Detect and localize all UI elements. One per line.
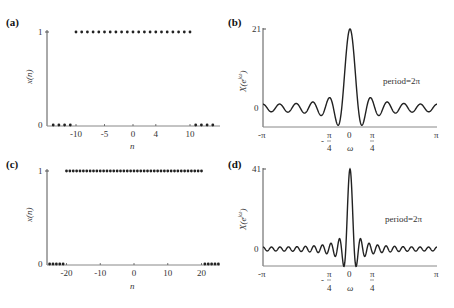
svg-text:0: 0 xyxy=(347,269,352,279)
x-tick-label: 10 xyxy=(186,129,196,139)
sample-point xyxy=(126,31,129,34)
sample-point xyxy=(172,31,175,34)
panel-c-label: (c) xyxy=(6,158,19,171)
sample-point xyxy=(143,170,146,173)
sample-point xyxy=(58,263,61,266)
panel-c-ytick-1: 1 xyxy=(38,166,43,176)
sample-point xyxy=(163,170,166,173)
sample-point xyxy=(146,170,149,173)
panel-d-ytick-top: 41 xyxy=(252,164,261,174)
sample-point xyxy=(173,170,176,173)
svg-text:π: π xyxy=(370,269,375,279)
panel-a-stems xyxy=(52,31,214,127)
svg-text:4: 4 xyxy=(327,143,332,153)
x-tick-label: -20 xyxy=(61,268,73,278)
sample-point xyxy=(75,31,78,34)
sample-point xyxy=(210,263,213,266)
sample-point xyxy=(129,170,132,173)
sample-point xyxy=(115,31,118,34)
sample-point xyxy=(55,263,58,266)
panel-c-ytick-0: 0 xyxy=(38,259,43,269)
panel-d-annotation: period=2π xyxy=(385,214,423,224)
sample-point xyxy=(75,170,78,173)
sample-point xyxy=(89,170,92,173)
sample-point xyxy=(154,31,157,34)
panel-d-ylabel: X(ejω) xyxy=(237,209,248,231)
sample-point xyxy=(156,170,159,173)
panel-d-label: (d) xyxy=(228,158,242,171)
sample-point xyxy=(82,170,85,173)
sample-point xyxy=(109,170,112,173)
panel-b: (b) 21 0 X(ejω) period=2π -π π - 4 0 π 4… xyxy=(228,16,439,153)
sample-point xyxy=(200,124,203,127)
x-tick-label: 10 xyxy=(163,268,173,278)
sample-point xyxy=(92,31,95,34)
sample-point xyxy=(137,31,140,34)
sample-point xyxy=(79,170,82,173)
x-tick-label: 4 xyxy=(154,129,159,139)
sample-point xyxy=(126,170,129,173)
sample-point xyxy=(149,31,152,34)
svg-text:-π: -π xyxy=(258,269,266,279)
sample-point xyxy=(65,170,68,173)
svg-text:-π: -π xyxy=(258,130,266,140)
sample-point xyxy=(52,124,55,127)
panel-a: (a) 1 0 x(n) -10-50410 n xyxy=(6,16,220,151)
sample-point xyxy=(86,31,89,34)
panel-a-ylabel: x(n) xyxy=(24,70,34,86)
sample-point xyxy=(187,170,190,173)
panel-d: (d) 41 0 X(ejω) period=2π -π π - 4 0 π 4… xyxy=(228,158,439,293)
sample-point xyxy=(206,124,209,127)
sample-point xyxy=(92,170,95,173)
figure: (a) 1 0 x(n) -10-50410 n (b) 21 0 X(ejω)… xyxy=(0,0,454,308)
sample-point xyxy=(52,263,55,266)
sample-point xyxy=(103,31,106,34)
sample-point xyxy=(190,170,193,173)
sample-point xyxy=(217,263,220,266)
sample-point xyxy=(176,170,179,173)
panel-b-xlabel: ω xyxy=(347,143,353,153)
svg-text:0: 0 xyxy=(347,130,352,140)
x-tick-label: -5 xyxy=(101,129,109,139)
svg-text:-: - xyxy=(321,136,324,146)
sample-point xyxy=(189,31,192,34)
panel-c-stems xyxy=(48,170,220,266)
panel-b-ylabel: X(ejω) xyxy=(237,71,248,93)
panel-b-ytick-0: 0 xyxy=(254,103,259,113)
sample-point xyxy=(153,170,156,173)
x-tick-label: 0 xyxy=(132,268,137,278)
sample-point xyxy=(85,170,88,173)
svg-text:π: π xyxy=(370,130,375,140)
panel-c-xlabel: n xyxy=(130,281,135,291)
sample-point xyxy=(68,170,71,173)
x-tick-label: -10 xyxy=(94,268,106,278)
sample-point xyxy=(183,170,186,173)
panel-a-ytick-0: 0 xyxy=(38,120,43,130)
sample-point xyxy=(109,31,112,34)
sample-point xyxy=(149,170,152,173)
svg-text:-: - xyxy=(321,275,324,285)
sample-point xyxy=(102,170,105,173)
sample-point xyxy=(63,124,66,127)
sample-point xyxy=(143,31,146,34)
svg-text:π: π xyxy=(327,130,332,140)
sample-point xyxy=(214,263,217,266)
sample-point xyxy=(62,263,65,266)
sample-point xyxy=(136,170,139,173)
panel-b-ytick-top: 21 xyxy=(252,24,261,34)
sample-point xyxy=(133,170,136,173)
sample-point xyxy=(194,124,197,127)
panel-d-xlabel: ω xyxy=(347,283,353,293)
sample-point xyxy=(160,31,163,34)
sample-point xyxy=(180,170,183,173)
sample-point xyxy=(48,263,51,266)
sample-point xyxy=(122,170,125,173)
sample-point xyxy=(80,31,83,34)
panel-a-ytick-1: 1 xyxy=(38,27,43,37)
panel-a-xlabel: n xyxy=(130,141,135,151)
x-tick-label: 0 xyxy=(131,129,136,139)
sample-point xyxy=(120,31,123,34)
svg-text:π: π xyxy=(327,269,332,279)
svg-text:4: 4 xyxy=(370,283,375,293)
sample-point xyxy=(69,124,72,127)
